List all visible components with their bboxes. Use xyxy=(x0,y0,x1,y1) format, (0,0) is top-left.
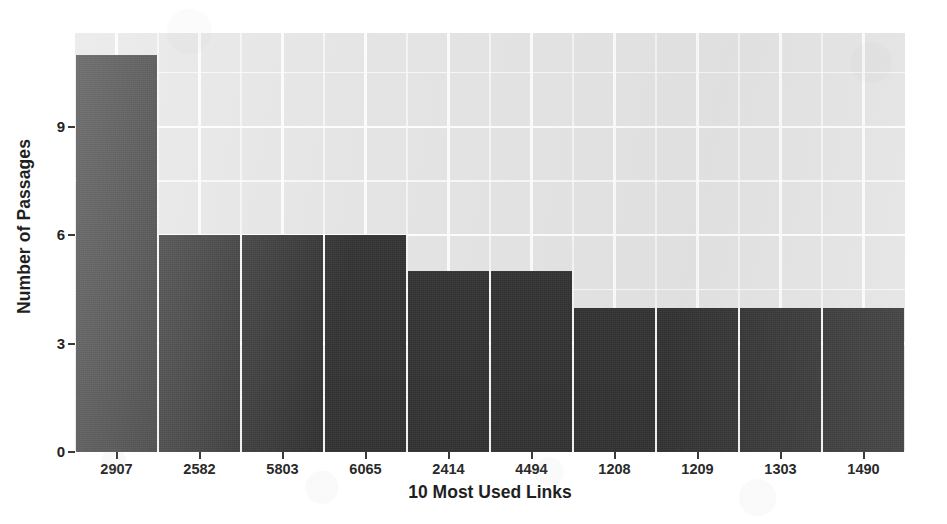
y-axis-tick-text: 3 xyxy=(57,334,65,354)
x-axis-tick-label: 1490 xyxy=(819,461,909,477)
x-axis-tick-label: 2414 xyxy=(404,461,494,477)
y-axis-title-text: Number of Passages xyxy=(14,139,35,314)
y-axis-tick-text: 6 xyxy=(57,225,65,245)
x-axis-tick-label: 1303 xyxy=(736,461,826,477)
y-axis-tick-mark xyxy=(68,451,75,453)
gridline-minor-vertical xyxy=(323,33,324,452)
bar-texture xyxy=(657,308,737,452)
bar-texture xyxy=(325,235,405,452)
y-axis-ticks: 0369 xyxy=(44,0,75,452)
x-axis-title: 10 Most Used Links xyxy=(75,482,905,503)
bar-texture xyxy=(823,308,903,452)
gridline-minor-vertical xyxy=(572,33,573,452)
x-axis-tick-label: 1209 xyxy=(653,461,743,477)
gridline-minor-vertical xyxy=(738,33,739,452)
bar-texture xyxy=(574,308,654,452)
y-axis-tick-label: 6 xyxy=(57,225,75,245)
x-axis-tick-mark xyxy=(531,452,533,459)
bar xyxy=(823,308,903,452)
x-axis-tick-mark xyxy=(863,452,865,459)
x-axis-tick-mark xyxy=(448,452,450,459)
bar xyxy=(491,271,571,452)
bar-chart-figure: Number of Passages 0369 2907258258036065… xyxy=(0,0,947,524)
bar-texture xyxy=(491,271,571,452)
bar-texture xyxy=(242,235,322,452)
y-axis-tick-mark xyxy=(68,126,75,128)
x-axis-tick-mark xyxy=(614,452,616,459)
x-axis-tick-label: 2907 xyxy=(72,461,162,477)
gridline-minor-vertical xyxy=(406,33,407,452)
x-axis-tick-mark xyxy=(199,452,201,459)
bar xyxy=(408,271,488,452)
gridline-minor-vertical xyxy=(489,33,490,452)
y-axis-tick-label: 9 xyxy=(57,117,75,137)
bar xyxy=(740,308,820,452)
x-axis-tick-label: 6065 xyxy=(321,461,411,477)
x-axis-tick-label: 1208 xyxy=(570,461,660,477)
bar xyxy=(574,308,654,452)
bar xyxy=(76,55,156,452)
bar xyxy=(657,308,737,452)
x-axis-tick-label: 2582 xyxy=(155,461,245,477)
x-axis-tick-mark xyxy=(116,452,118,459)
bar xyxy=(159,235,239,452)
y-axis-title: Number of Passages xyxy=(0,0,48,452)
x-axis-tick-labels: 2907258258036065241444941208120913031490 xyxy=(75,461,905,483)
y-axis-tick-mark xyxy=(68,234,75,236)
gridline-minor-vertical xyxy=(821,33,822,452)
x-axis-tick-mark xyxy=(697,452,699,459)
y-axis-tick-label: 0 xyxy=(57,442,75,462)
bar-texture xyxy=(159,235,239,452)
bar xyxy=(325,235,405,452)
y-axis-tick-label: 3 xyxy=(57,334,75,354)
bar-texture xyxy=(408,271,488,452)
gridline-minor-vertical xyxy=(655,33,656,452)
gridline-minor-vertical xyxy=(157,33,158,452)
gridline-minor-vertical xyxy=(240,33,241,452)
y-axis-tick-text: 0 xyxy=(57,442,65,462)
x-axis-tick-label: 5803 xyxy=(238,461,328,477)
x-axis-tick-mark xyxy=(780,452,782,459)
plot-panel xyxy=(75,33,905,452)
bar-texture xyxy=(76,55,156,452)
y-axis-tick-mark xyxy=(68,343,75,345)
bar-texture xyxy=(740,308,820,452)
x-axis-tick-marks xyxy=(75,452,905,461)
x-axis-tick-label: 4494 xyxy=(487,461,577,477)
x-axis-tick-mark xyxy=(365,452,367,459)
y-axis-tick-text: 9 xyxy=(57,117,65,137)
bar xyxy=(242,235,322,452)
x-axis-tick-mark xyxy=(282,452,284,459)
